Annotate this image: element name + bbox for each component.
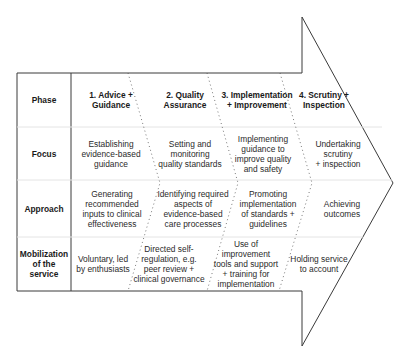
phase-header-4: 4. Scrutiny + Inspection <box>288 73 360 127</box>
mobilization-1-text: Voluntary, led by enthusiasts <box>76 254 130 274</box>
focus-2-text: Setting and monitoring quality standards <box>158 139 221 169</box>
mobilization-4-text: Holding service to account <box>290 254 347 274</box>
mobilization-cell-2: Directed self- regulation, e.g. peer rev… <box>130 237 208 291</box>
focus-cell-1: Establishing evidence-based guidance <box>72 127 150 180</box>
row-label-phase-text: Phase <box>32 95 57 105</box>
focus-4-text: Undertaking scrutiny + inspection <box>315 139 360 169</box>
approach-cell-4: Achieving outcomes <box>305 180 379 237</box>
row-label-approach: Approach <box>17 180 71 237</box>
row-label-focus-text: Focus <box>32 149 57 159</box>
mobilization-cell-1: Voluntary, led by enthusiasts <box>72 237 134 291</box>
approach-3-text: Promoting implementation of standards + … <box>240 189 297 229</box>
mobilization-cell-4: Holding service to account <box>284 237 354 291</box>
approach-cell-2: Identifying required aspects of evidence… <box>150 180 236 237</box>
phase-3-title: 3. Implementation + Improvement <box>221 90 292 110</box>
phase-4-title: 4. Scrutiny + Inspection <box>299 90 349 110</box>
row-label-mobilization: Mobilization of the service <box>17 237 71 291</box>
row-label-focus: Focus <box>17 127 71 180</box>
mobilization-cell-3: Use of improvement tools and support + t… <box>206 237 286 291</box>
approach-2-text: Identifying required aspects of evidence… <box>157 189 228 229</box>
row-label-phase: Phase <box>17 73 71 127</box>
approach-4-text: Achieving outcomes <box>305 199 379 219</box>
phase-header-1: 1. Advice + Guidance <box>76 73 146 127</box>
row-label-approach-text: Approach <box>24 204 63 214</box>
mobilization-3-text: Use of improvement tools and support + t… <box>214 239 278 289</box>
focus-3-text: Implementing guidance to improve quality… <box>235 134 291 174</box>
mobilization-2-text: Directed self- regulation, e.g. peer rev… <box>133 244 204 284</box>
focus-cell-3: Implementing guidance to improve quality… <box>222 127 304 180</box>
focus-cell-2: Setting and monitoring quality standards <box>150 127 230 180</box>
focus-cell-4: Undertaking scrutiny + inspection <box>302 127 374 180</box>
approach-cell-3: Promoting implementation of standards + … <box>228 180 308 237</box>
approach-1-text: Generating recommended inputs to clinica… <box>82 189 141 229</box>
phase-2-title: 2. Quality Assurance <box>164 90 207 110</box>
focus-1-text: Establishing evidence-based guidance <box>81 139 140 169</box>
approach-cell-1: Generating recommended inputs to clinica… <box>72 180 152 237</box>
phase-1-title: 1. Advice + Guidance <box>89 90 133 110</box>
row-label-mobilization-text: Mobilization of the service <box>20 249 68 279</box>
